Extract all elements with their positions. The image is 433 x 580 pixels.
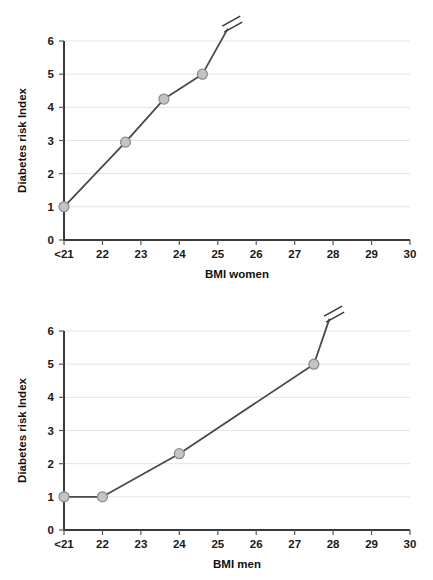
- x-tick-label: 26: [250, 538, 263, 550]
- x-tick-label: 27: [288, 248, 301, 260]
- x-tick-label: 25: [211, 538, 224, 550]
- y-tick-label: 0: [48, 234, 54, 246]
- x-tick-label: 30: [404, 248, 417, 260]
- x-tick-label: 27: [288, 538, 301, 550]
- data-point-marker[interactable]: [59, 202, 69, 212]
- y-axis-title: Diabetes risk Index: [16, 87, 28, 192]
- data-point-marker[interactable]: [159, 94, 169, 104]
- x-tick-label: 26: [250, 248, 263, 260]
- y-tick-label: 4: [48, 391, 55, 403]
- y-axis-title: Diabetes risk Index: [16, 377, 28, 482]
- y-tick-label: 1: [48, 201, 55, 213]
- x-tick-label: 22: [96, 248, 109, 260]
- y-tick-label: 3: [48, 425, 54, 437]
- x-tick-label: 29: [365, 538, 378, 550]
- y-tick-label: 1: [48, 491, 55, 503]
- x-tick-label: 22: [96, 538, 109, 550]
- x-tick-label: 25: [211, 248, 224, 260]
- data-point-marker[interactable]: [59, 492, 69, 502]
- chart-panel-women: <212223242526272829300123456BMI womenDia…: [0, 0, 433, 290]
- y-tick-label: 6: [48, 35, 54, 47]
- x-tick-label: 23: [134, 538, 147, 550]
- data-point-marker[interactable]: [174, 449, 184, 459]
- series-line: [64, 319, 329, 496]
- series-line: [64, 29, 227, 206]
- x-tick-label: <21: [54, 538, 74, 550]
- data-point-marker[interactable]: [97, 492, 107, 502]
- data-point-marker[interactable]: [121, 137, 131, 147]
- data-point-marker[interactable]: [309, 359, 319, 369]
- y-tick-label: 0: [48, 524, 54, 536]
- figure-root: <212223242526272829300123456BMI womenDia…: [0, 0, 433, 580]
- x-tick-label: 24: [173, 248, 186, 260]
- y-tick-label: 2: [48, 168, 54, 180]
- x-tick-label: 23: [134, 248, 147, 260]
- x-tick-label: 28: [327, 538, 340, 550]
- chart-panel-men: <212223242526272829300123456BMI menDiabe…: [0, 290, 433, 580]
- y-tick-label: 5: [48, 68, 55, 80]
- axis-break-icon: [324, 306, 344, 322]
- y-tick-label: 3: [48, 135, 54, 147]
- chart-svg-women: <212223242526272829300123456BMI womenDia…: [0, 0, 433, 290]
- x-tick-label: <21: [54, 248, 74, 260]
- data-point-marker[interactable]: [197, 69, 207, 79]
- axis-break-icon: [222, 16, 242, 32]
- x-tick-label: 24: [173, 538, 186, 550]
- y-tick-label: 2: [48, 458, 54, 470]
- y-tick-label: 6: [48, 325, 54, 337]
- x-axis-title: BMI men: [213, 558, 261, 570]
- y-tick-label: 4: [48, 101, 55, 113]
- x-tick-label: 28: [327, 248, 340, 260]
- y-tick-label: 5: [48, 358, 55, 370]
- chart-svg-men: <212223242526272829300123456BMI menDiabe…: [0, 290, 433, 580]
- x-axis-title: BMI women: [205, 268, 269, 280]
- x-tick-label: 30: [404, 538, 417, 550]
- x-tick-label: 29: [365, 248, 378, 260]
